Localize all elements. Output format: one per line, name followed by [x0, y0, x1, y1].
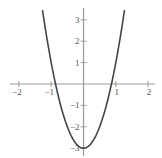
- x-tick-label: 1: [115, 87, 120, 97]
- y-tick-label: −2: [70, 122, 80, 132]
- parabola-chart: −2−112 −3−2−1123: [0, 0, 162, 158]
- y-tick-label: 2: [75, 36, 80, 46]
- x-tick-label: −1: [44, 87, 54, 97]
- y-tick-label: 1: [75, 58, 80, 68]
- y-tick-label: −1: [70, 100, 80, 110]
- y-tick-label: −3: [70, 143, 80, 153]
- x-tick-label: 2: [147, 87, 152, 97]
- x-tick-label: −2: [12, 87, 22, 97]
- y-tick-label: 3: [75, 15, 80, 25]
